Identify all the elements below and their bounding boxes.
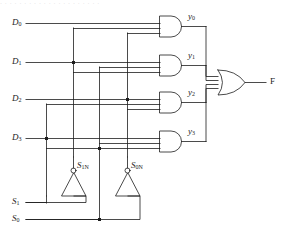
label-y3: y3 xyxy=(188,127,195,136)
label-d2: D2 xyxy=(12,94,22,103)
inverter-2-bubble xyxy=(125,168,130,173)
or-gate-body xyxy=(218,70,245,95)
label-y0: y0 xyxy=(188,12,195,21)
label-s1n: S1N xyxy=(77,161,89,170)
label-s1: S1 xyxy=(12,197,20,206)
junction-d3-s1 xyxy=(45,137,48,140)
junction-d2-s0n xyxy=(126,98,129,101)
label-s0n: S0N xyxy=(131,161,143,170)
circuit-svg xyxy=(0,0,284,233)
junction-d1-s1n xyxy=(72,61,75,64)
label-d3: D3 xyxy=(12,133,22,142)
inverter-1-triangle xyxy=(62,173,86,196)
and-gate-3-body xyxy=(160,131,182,152)
junction-d3-s0 xyxy=(98,147,101,150)
label-s0: S0 xyxy=(12,214,20,223)
circuit-diagram: · · · · · · · · · · · · · · · · · · · · … xyxy=(0,0,284,233)
inverter-1-bubble xyxy=(71,168,76,173)
junction-s0-rail xyxy=(98,218,101,221)
inverter-2-in-route xyxy=(26,196,140,220)
and-gate-2-body xyxy=(160,92,182,113)
route-y2-to-or xyxy=(206,85,218,103)
inverter-2-triangle xyxy=(116,173,140,196)
label-y1: y1 xyxy=(188,51,195,60)
label-f: F xyxy=(270,77,275,86)
label-d1: D1 xyxy=(12,57,22,66)
and-gate-1-body xyxy=(160,55,182,76)
route-y0-to-or xyxy=(206,27,218,77)
label-d0: D0 xyxy=(12,18,22,27)
label-y2: y2 xyxy=(188,88,195,97)
route-y1-to-or xyxy=(206,66,218,81)
inverter-1-in-route xyxy=(26,196,86,203)
route-y3-to-or xyxy=(206,89,218,142)
and-gate-0-body xyxy=(160,16,182,37)
